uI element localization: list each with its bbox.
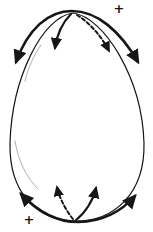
plus-sign-top-right: + — [114, 1, 125, 16]
egg-rotation-diagram: + + — [0, 0, 153, 232]
top-sweep-arrow — [16, 11, 138, 62]
egg-outline — [10, 13, 144, 221]
bottom-dashed-arrow — [57, 187, 73, 219]
bottom-solid-arrow — [76, 188, 96, 220]
highlight-line-lower-left — [15, 141, 38, 189]
plus-sign-bottom-left: + — [24, 212, 35, 227]
inner-highlight-lines — [15, 45, 41, 189]
diagram-canvas: + + — [0, 0, 153, 232]
ink-layer — [10, 11, 144, 222]
